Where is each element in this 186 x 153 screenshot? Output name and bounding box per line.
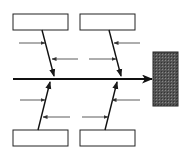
fishbone-diagram: [0, 0, 186, 153]
effect-box[interactable]: [153, 52, 178, 106]
category-box-top-left[interactable]: [13, 14, 68, 30]
category-box-top-right[interactable]: [80, 14, 135, 30]
bone-top-left: [42, 30, 54, 76]
category-box-bottom-right[interactable]: [80, 130, 135, 146]
bone-bottom-left: [38, 82, 50, 130]
bone-bottom-right: [105, 82, 117, 130]
bone-top-right: [109, 30, 121, 76]
category-box-bottom-left[interactable]: [13, 130, 68, 146]
